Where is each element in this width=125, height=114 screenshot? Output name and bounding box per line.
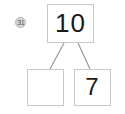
connector-line-left — [50, 43, 64, 69]
whole-box[interactable]: 10 — [47, 4, 94, 43]
marker-label: 31 — [17, 19, 24, 25]
part-right-value: 7 — [85, 75, 99, 99]
circle-badge-icon: 31 — [15, 17, 26, 28]
whole-value: 10 — [55, 10, 86, 36]
connector-line-right — [78, 43, 90, 69]
part-left-box[interactable] — [27, 69, 64, 106]
number-bond-diagram: 31 10 7 — [0, 0, 125, 114]
part-right-box[interactable]: 7 — [74, 69, 111, 106]
